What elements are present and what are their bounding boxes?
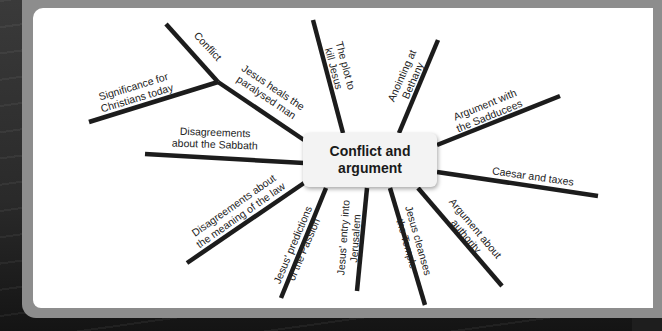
line-sabbath bbox=[145, 154, 304, 163]
central-topic-title: Conflict and argument bbox=[315, 143, 425, 177]
label-sabbath: Disagreements about the Sabbath bbox=[160, 124, 271, 152]
central-topic: Conflict and argument bbox=[303, 133, 437, 187]
